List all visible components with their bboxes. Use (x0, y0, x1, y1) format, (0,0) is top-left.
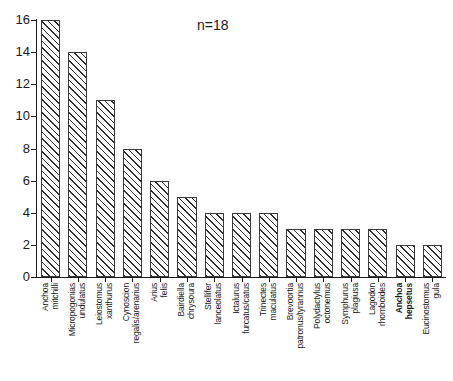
species-epithet: regalis/arenarius (132, 283, 142, 377)
species-epithet: felis (159, 283, 169, 377)
x-axis-tick-mark (405, 278, 406, 282)
x-axis-tick-mark (187, 278, 188, 282)
species-genus: Lagodon (368, 283, 378, 377)
species-epithet: gula (432, 283, 442, 377)
x-axis-tick-mark (132, 278, 133, 282)
species-genus: Anchoa (41, 283, 51, 377)
species-epithet: octonemus (323, 283, 333, 377)
bar-chart-figure: 0246810121416 n=18 AnchoamitchilliMicrop… (0, 0, 453, 381)
species-genus: Micropogonias (68, 283, 78, 377)
x-axis-tick-mark (432, 278, 433, 282)
species-epithet: undulatus (77, 283, 87, 377)
species-genus: Arius (150, 283, 160, 377)
x-axis-tick-mark (296, 278, 297, 282)
species-epithet: lanceolatus (214, 283, 224, 377)
x-axis-tick-mark (242, 278, 243, 282)
x-axis-tick-mark (51, 278, 52, 282)
species-genus: Symphurus (341, 283, 351, 377)
x-axis-tick-mark (105, 278, 106, 282)
x-axis-tick-mark (214, 278, 215, 282)
x-axis-tick-mark (323, 278, 324, 282)
species-genus: Trinectes (259, 283, 269, 377)
x-axis-category-labels: AnchoamitchilliMicropogoniasundulatusLei… (0, 0, 453, 381)
species-genus: Ictalurus (232, 283, 242, 377)
species-epithet: patronus/tyrannus (296, 283, 306, 377)
x-axis-tick-mark (269, 278, 270, 282)
species-epithet: mitchilli (50, 283, 60, 377)
x-axis-tick-mark (160, 278, 161, 282)
species-epithet: maculatus (268, 283, 278, 377)
x-axis-tick-mark (78, 278, 79, 282)
species-epithet: plagiusa (350, 283, 360, 377)
species-epithet: chrysoura (186, 283, 196, 377)
x-axis-tick-mark (378, 278, 379, 282)
species-epithet: furcatus/catus (241, 283, 251, 377)
species-epithet: hepsetus (405, 283, 415, 377)
species-epithet: rhomboides (377, 283, 387, 377)
x-axis-tick-mark (351, 278, 352, 282)
species-epithet: xanthurus (105, 283, 115, 377)
